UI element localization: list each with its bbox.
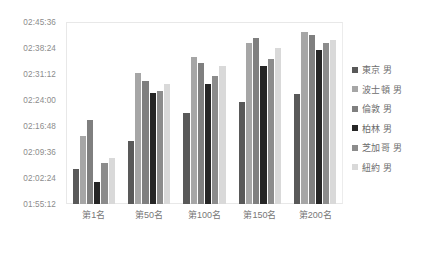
bar <box>191 57 197 204</box>
legend-item-label: 柏林 男 <box>362 122 393 135</box>
bar <box>323 43 329 204</box>
legend-swatch-icon <box>352 125 358 131</box>
bar-group <box>288 22 343 204</box>
y-axis-tick-label: 01:55:12 <box>23 200 56 209</box>
bar <box>219 66 225 204</box>
bar <box>87 120 93 204</box>
bar <box>253 38 259 204</box>
y-axis: 02:45:3602:38:2402:31:1202:24:0002:16:48… <box>0 22 62 204</box>
bar <box>157 91 163 205</box>
legend-item[interactable]: 柏林 男 <box>352 119 437 139</box>
bar <box>101 163 107 204</box>
bar <box>205 84 211 204</box>
bar <box>246 43 252 204</box>
bar-group <box>121 22 176 204</box>
bar <box>309 35 315 204</box>
bar <box>268 59 274 204</box>
legend-item[interactable]: 紐約 男 <box>352 158 437 178</box>
x-axis-tick-label: 第1名 <box>82 208 105 221</box>
y-axis-tick-label: 02:16:48 <box>23 122 56 131</box>
bar <box>330 40 336 204</box>
x-axis: 第1名第50名第100名第150名第200名 <box>66 206 343 228</box>
legend-item[interactable]: 倫敦 男 <box>352 99 437 119</box>
bar <box>198 63 204 204</box>
bar <box>109 158 115 204</box>
chart-legend: 東京 男波士頓 男倫敦 男柏林 男芝加哥 男紐約 男 <box>352 60 437 177</box>
bar <box>239 102 245 204</box>
y-axis-tick-label: 02:45:36 <box>23 18 56 27</box>
bar <box>94 182 100 205</box>
bar <box>260 66 266 204</box>
y-axis-tick-label: 02:09:36 <box>23 148 56 157</box>
y-axis-tick-label: 02:24:00 <box>23 96 56 105</box>
y-axis-tick-label: 02:38:24 <box>23 44 56 53</box>
bar <box>150 93 156 204</box>
plot-area <box>66 22 343 204</box>
bar <box>275 48 281 204</box>
bar <box>128 141 134 204</box>
bar <box>301 32 307 204</box>
bar <box>183 113 189 204</box>
x-axis-tick-label: 第50名 <box>135 208 163 221</box>
y-axis-tick-label: 02:31:12 <box>23 70 56 79</box>
bar <box>80 136 86 204</box>
legend-item[interactable]: 東京 男 <box>352 60 437 80</box>
bar <box>316 50 322 204</box>
legend-item[interactable]: 芝加哥 男 <box>352 138 437 158</box>
legend-item-label: 倫敦 男 <box>362 102 393 115</box>
y-axis-tick-label: 02:02:24 <box>23 174 56 183</box>
bar-group <box>232 22 287 204</box>
bar <box>135 73 141 204</box>
legend-swatch-icon <box>352 145 358 151</box>
bar <box>164 84 170 204</box>
bar-chart: 02:45:3602:38:2402:31:1202:24:0002:16:48… <box>0 0 437 253</box>
legend-swatch-icon <box>352 106 358 112</box>
x-axis-tick-label: 第150名 <box>243 208 276 221</box>
legend-item-label: 波士頓 男 <box>362 83 402 96</box>
legend-item-label: 芝加哥 男 <box>362 141 402 154</box>
bar <box>142 81 148 204</box>
legend-item[interactable]: 波士頓 男 <box>352 80 437 100</box>
legend-item-label: 東京 男 <box>362 63 393 76</box>
bar-group <box>66 22 121 204</box>
legend-item-label: 紐約 男 <box>362 161 393 174</box>
bar-group <box>177 22 232 204</box>
bar <box>73 169 79 204</box>
legend-swatch-icon <box>352 86 358 92</box>
bar <box>294 94 300 204</box>
bar <box>212 76 218 204</box>
x-axis-tick-label: 第200名 <box>299 208 332 221</box>
legend-swatch-icon <box>352 164 358 170</box>
legend-swatch-icon <box>352 67 358 73</box>
x-axis-tick-label: 第100名 <box>188 208 221 221</box>
